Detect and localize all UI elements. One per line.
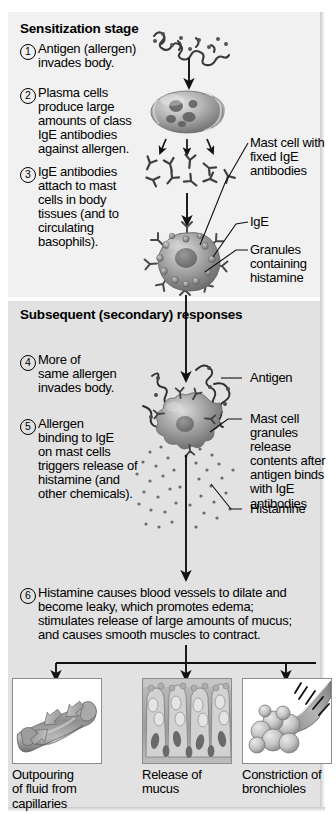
step-number-2: 2: [20, 88, 36, 104]
callout-mast-cell-with-fixed-ige: Mast cell with fixed IgE antibodies: [250, 136, 325, 178]
step-number-4: 4: [20, 355, 36, 371]
step-number-5: 5: [20, 419, 36, 435]
subsequent-responses-heading: Subsequent (secondary) responses: [20, 308, 242, 322]
callout-granules-histamine: Granules containing histamine: [250, 243, 307, 285]
outcome-caption-bronchioles: Constriction of bronchioles: [242, 768, 321, 797]
sensitization-stage-heading: Sensitization stage: [20, 22, 138, 36]
outcome-image-bronchiole: [242, 678, 332, 764]
callout-antigen: Antigen: [250, 371, 292, 385]
step-number-1: 1: [20, 44, 36, 60]
step-text-6: Histamine causes blood vessels to dilate…: [38, 586, 316, 642]
allergy-mechanism-figure: Sensitization stage 1 Antigen (allergen)…: [0, 0, 336, 815]
outcome-image-capillary: [12, 678, 102, 764]
stage-divider: [8, 297, 320, 301]
step-text-4: More of same allergen invades body.: [38, 353, 116, 395]
callout-ige: IgE: [250, 215, 269, 229]
outcome-caption-mucus: Release of mucus: [142, 768, 202, 797]
step-text-2: Plasma cells produce large amounts of cl…: [38, 86, 132, 156]
callout-histamine: Histamine: [250, 502, 306, 516]
callout-mast-cell-granules-release: Mast cell granules release contents afte…: [250, 412, 336, 511]
step-number-3: 3: [20, 167, 36, 183]
step-text-1: Antigen (allergen) invades body.: [38, 42, 136, 70]
step-text-3: IgE antibodies attach to mast cells in b…: [38, 165, 119, 250]
step-text-5: Allergen binding to IgE on mast cells tr…: [38, 417, 137, 502]
outcome-image-mucus: [142, 678, 232, 764]
outcome-caption-capillaries: Outpouring of fluid from capillaries: [12, 768, 77, 811]
step-number-6: 6: [20, 588, 36, 604]
